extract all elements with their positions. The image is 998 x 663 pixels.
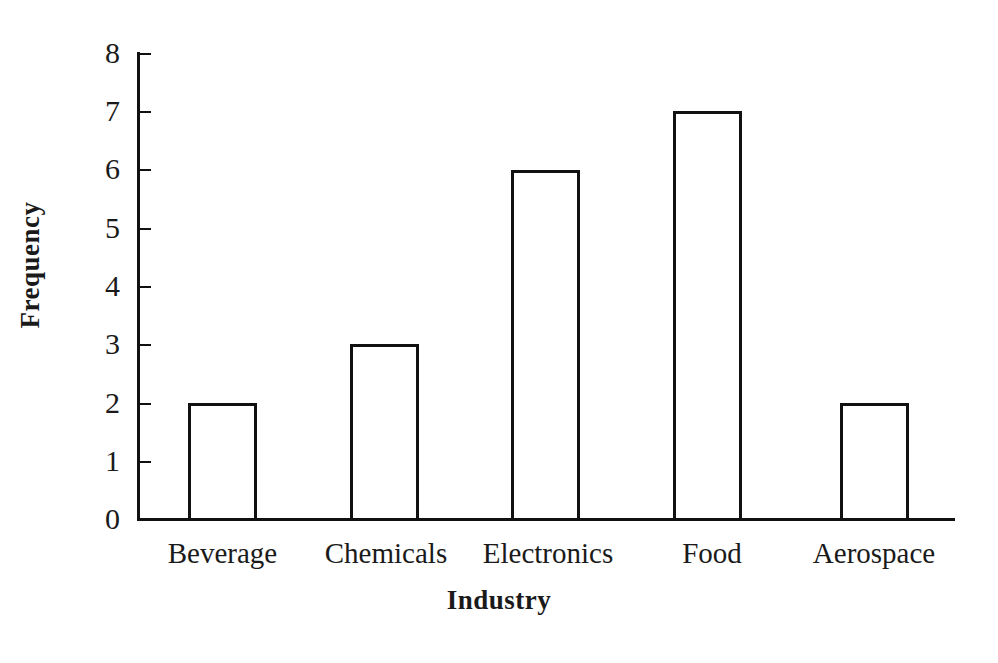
bar-chemicals — [350, 344, 419, 521]
bar-beverage — [188, 403, 257, 522]
y-axis-tick-label: 8 — [86, 38, 120, 68]
y-axis-tick-label: 3 — [86, 329, 120, 359]
y-axis-tick — [140, 228, 151, 230]
x-axis-category-label: Chemicals — [300, 536, 472, 570]
y-axis-tick — [140, 169, 151, 171]
y-axis-tick — [140, 286, 151, 288]
bar-food — [673, 111, 742, 521]
y-axis-tick-label: 5 — [86, 213, 120, 243]
y-axis-tick — [140, 344, 151, 346]
bar-chart: 8 7 6 5 4 3 2 1 0 Beverage Chemicals Ele… — [0, 0, 998, 663]
y-axis-tick-label: 1 — [86, 446, 120, 476]
y-axis-title: Frequency — [13, 180, 47, 350]
y-axis-tick-label: 6 — [86, 154, 120, 184]
bar-aerospace — [840, 403, 909, 522]
x-axis-category-label: Aerospace — [788, 536, 960, 570]
x-axis-category-label: Electronics — [462, 536, 634, 570]
x-axis-category-label: Food — [626, 536, 798, 570]
bar-electronics — [511, 170, 580, 522]
y-axis-tick-label: 7 — [86, 96, 120, 126]
y-axis-tick — [140, 111, 151, 113]
y-axis-tick-label: 2 — [86, 388, 120, 418]
y-axis-tick-label: 4 — [86, 271, 120, 301]
x-axis-title: Industry — [0, 585, 998, 616]
y-axis-tick — [140, 403, 151, 405]
x-axis-category-label: Beverage — [140, 536, 305, 570]
y-axis-tick — [140, 53, 151, 55]
y-axis-tick-label: 0 — [86, 504, 120, 534]
y-axis-tick — [140, 461, 151, 463]
